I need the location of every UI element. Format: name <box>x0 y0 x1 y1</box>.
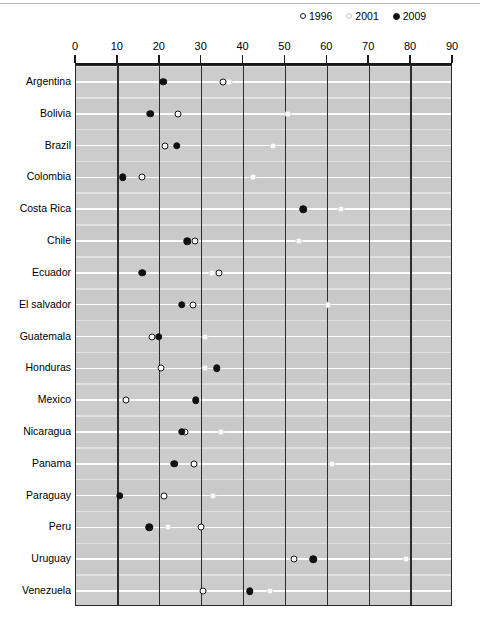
data-point-2009-paraguay <box>116 492 124 500</box>
y-axis-label-bolivia: Bolivia <box>1 107 71 119</box>
x-tick-label-10: 10 <box>111 40 123 52</box>
vertical-gridline-70 <box>369 66 370 605</box>
row-gridline <box>76 463 451 465</box>
data-point-2001-panama <box>329 460 336 467</box>
x-tick-20 <box>158 55 160 63</box>
y-axis-label-colombia: Colombia <box>1 170 71 182</box>
data-point-2009-argentina <box>159 78 167 86</box>
row-separator <box>76 129 451 131</box>
row-separator <box>76 479 451 481</box>
y-axis-label-honduras: Honduras <box>1 361 71 373</box>
data-point-2001-uruguay <box>403 556 410 563</box>
row-separator <box>76 97 451 99</box>
data-point-2009-guatemala <box>155 333 163 341</box>
data-point-1996-ecuador <box>215 269 222 276</box>
row-gridline <box>76 527 451 529</box>
vertical-gridline-10 <box>117 66 118 605</box>
y-axis-label-guatemala: Guatemala <box>1 330 71 342</box>
data-point-2009-colombia <box>119 174 127 182</box>
data-point-2001-costa-rica <box>337 206 344 213</box>
row-separator <box>76 288 451 290</box>
data-point-1996-uruguay <box>290 556 297 563</box>
x-tick-40 <box>242 55 244 63</box>
x-tick-label-70: 70 <box>362 40 374 52</box>
row-gridline <box>76 368 451 370</box>
data-point-1996-brazil <box>161 142 168 149</box>
data-point-2009-ecuador <box>138 269 146 277</box>
data-point-2001-brazil <box>269 142 276 149</box>
row-gridline <box>76 208 451 210</box>
data-point-2001-guatemala <box>202 333 209 340</box>
row-separator <box>76 543 451 545</box>
y-axis-label-venezuela: Venezuela <box>1 584 71 596</box>
x-tick-label-20: 20 <box>153 40 165 52</box>
data-point-2001-peru <box>165 524 172 531</box>
data-point-2009-costa-rica <box>299 205 307 213</box>
data-point-2009-honduras <box>213 365 221 373</box>
data-point-2009-uruguay <box>309 556 317 564</box>
y-axis-label-chile: Chile <box>1 234 71 246</box>
data-point-2009-el-salvador <box>178 301 186 309</box>
data-point-2009-bolivia <box>146 110 154 118</box>
data-point-1996-honduras <box>158 365 165 372</box>
open-circle-light-icon <box>346 13 352 19</box>
plot-area <box>75 65 452 606</box>
data-point-2001-chile <box>295 238 302 245</box>
data-point-2001-paraguay <box>209 492 216 499</box>
y-axis-label-ecuador: Ecuador <box>1 266 71 278</box>
row-separator <box>76 161 451 163</box>
data-point-2009-peru <box>146 524 154 532</box>
row-gridline <box>76 558 451 560</box>
legend-item-2001[interactable]: 2001 <box>346 11 378 22</box>
data-point-2001-nicaragua <box>217 428 224 435</box>
row-gridline <box>76 495 451 497</box>
y-axis-labels: ArgentinaBoliviaBrazilColombiaCosta Rica… <box>0 65 71 606</box>
y-axis-label-panama: Panama <box>1 457 71 469</box>
data-point-2001-bolivia <box>284 110 291 117</box>
data-point-2009-nicaragua <box>178 428 186 436</box>
x-tick-30 <box>200 55 202 63</box>
x-tick-80 <box>409 55 411 63</box>
data-point-1996-mexico <box>123 397 130 404</box>
row-separator <box>76 383 451 385</box>
x-tick-90 <box>451 55 453 63</box>
data-point-2001-argentina <box>225 78 232 85</box>
legend-item-2009[interactable]: 2009 <box>393 11 426 22</box>
x-tick-label-80: 80 <box>404 40 416 52</box>
data-point-2009-panama <box>170 460 178 468</box>
data-point-1996-chile <box>191 238 198 245</box>
data-point-2001-honduras <box>202 365 209 372</box>
row-separator <box>76 192 451 194</box>
top-divider <box>0 3 480 4</box>
vertical-gridline-40 <box>243 66 244 605</box>
data-point-1996-colombia <box>139 174 146 181</box>
chart-legend: 1996 2001 2009 <box>300 8 475 24</box>
row-gridline <box>76 272 451 274</box>
x-tick-label-60: 60 <box>320 40 332 52</box>
row-gridline <box>76 399 451 401</box>
data-point-1996-argentina <box>219 78 226 85</box>
row-gridline <box>76 336 451 338</box>
vertical-gridline-50 <box>285 66 286 605</box>
y-axis-label-mexico: Mexico <box>1 393 71 405</box>
data-point-1996-el-salvador <box>190 301 197 308</box>
x-tick-label-90: 90 <box>446 40 458 52</box>
y-axis-label-argentina: Argentina <box>1 75 71 87</box>
data-point-1996-venezuela <box>199 588 206 595</box>
row-gridline <box>76 304 451 306</box>
open-circle-dark-icon <box>300 13 306 19</box>
vertical-gridline-60 <box>327 66 328 605</box>
data-point-1996-peru <box>197 524 204 531</box>
data-point-1996-bolivia <box>175 110 182 117</box>
data-point-2009-mexico <box>192 396 200 404</box>
row-separator <box>76 320 451 322</box>
legend-item-1996[interactable]: 1996 <box>300 11 332 22</box>
row-gridline <box>76 590 451 592</box>
y-axis-label-paraguay: Paraguay <box>1 489 71 501</box>
row-separator <box>76 65 451 67</box>
data-point-2001-venezuela <box>266 588 273 595</box>
row-separator <box>76 224 451 226</box>
row-gridline <box>76 113 451 115</box>
data-point-2009-venezuela <box>246 587 254 595</box>
row-separator <box>76 415 451 417</box>
